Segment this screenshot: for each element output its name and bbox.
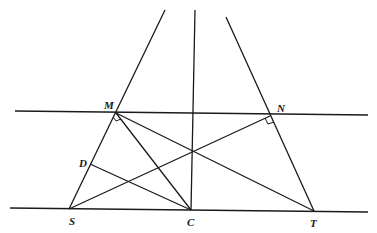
segment-SN bbox=[69, 116, 270, 209]
label-M: M bbox=[103, 99, 115, 111]
geometry-diagram: M N D S C T bbox=[0, 0, 377, 233]
label-T: T bbox=[310, 217, 318, 229]
label-C: C bbox=[187, 216, 195, 228]
ray-SM bbox=[69, 10, 165, 209]
segment-DC bbox=[90, 164, 191, 210]
label-D: D bbox=[78, 157, 87, 169]
segment-MT bbox=[116, 113, 314, 211]
label-S: S bbox=[69, 215, 75, 227]
label-N: N bbox=[276, 102, 286, 114]
segment-MC bbox=[116, 113, 191, 210]
line-MN bbox=[15, 111, 368, 115]
line-vertical-C bbox=[191, 10, 195, 210]
